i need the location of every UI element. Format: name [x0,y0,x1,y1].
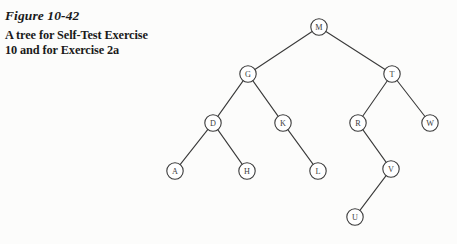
tree-node-k: K [275,115,291,131]
tree-node-a: A [167,163,183,179]
tree-node-w: W [422,115,438,131]
tree-edge-d-h [218,130,243,165]
node-label-l: L [315,167,320,176]
node-label-r: R [355,119,361,128]
tree-edge-m-t [326,31,385,69]
tree-node-v: V [383,161,399,177]
node-label-u: U [352,213,358,222]
tree-edge-t-w [397,80,425,116]
tree-node-g: G [240,66,256,82]
node-label-k: K [280,119,286,128]
tree-edge-r-v [363,130,386,163]
node-label-h: H [244,167,250,176]
node-label-g: G [245,70,251,79]
tree-edge-m-g [255,32,312,70]
figure-container: Figure 10-42 A tree for Self-Test Exerci… [0,0,457,244]
node-label-t: T [389,70,394,79]
tree-node-t: T [384,66,400,82]
tree-node-l: L [310,163,326,179]
binary-tree-diagram: MGTDKRWAHLVU [0,0,457,244]
tree-edge-t-r [363,81,388,117]
tree-edge-v-u [360,176,386,211]
node-label-a: A [172,167,178,176]
tree-node-d: D [205,115,221,131]
node-label-v: V [388,165,394,174]
node-label-m: M [315,23,323,32]
node-label-d: D [210,119,216,128]
tree-edge-g-d [218,81,243,117]
tree-node-r: R [350,115,366,131]
node-label-w: W [426,119,434,128]
tree-node-h: H [239,163,255,179]
tree-edge-g-k [253,81,278,117]
tree-node-u: U [347,209,363,225]
tree-node-m: M [311,19,327,35]
tree-node-layer: MGTDKRWAHLVU [167,19,438,225]
tree-edge-d-a [180,129,208,164]
tree-edge-k-l [288,130,313,165]
